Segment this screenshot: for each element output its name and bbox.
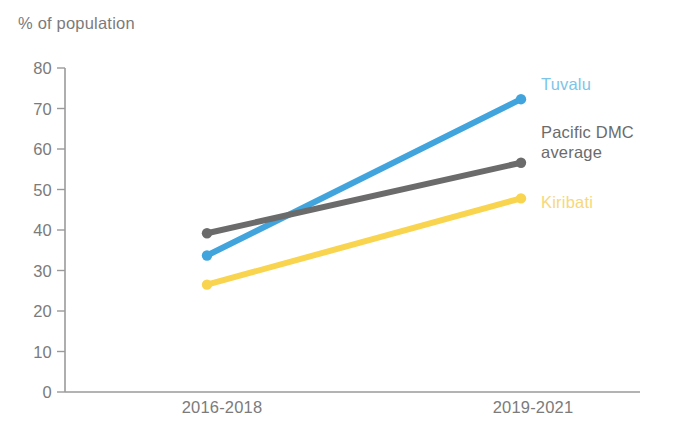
series-line — [207, 163, 521, 233]
data-point[interactable] — [202, 250, 212, 260]
series-line — [207, 198, 521, 284]
line-chart: % of population 80 70 60 50 40 30 20 10 … — [0, 0, 681, 422]
series-layer — [202, 94, 526, 290]
x-tick-label-1: 2019-2021 — [493, 398, 574, 417]
axis-lines — [65, 68, 640, 392]
data-point[interactable] — [516, 158, 526, 168]
series-label-tuvalu: Tuvalu — [541, 74, 591, 94]
data-point[interactable] — [202, 279, 212, 289]
data-point[interactable] — [516, 193, 526, 203]
series-kiribati — [202, 193, 526, 290]
series-line — [207, 99, 521, 255]
series-label-kiribati: Kiribati — [541, 192, 593, 212]
series-tuvalu — [202, 94, 526, 261]
data-point[interactable] — [516, 94, 526, 104]
data-point[interactable] — [202, 228, 212, 238]
series-pacific-dmc-average — [202, 158, 526, 239]
y-axis-ticks — [57, 68, 65, 392]
x-tick-label-0: 2016-2018 — [182, 398, 263, 417]
series-label-pacific-dmc-average: Pacific DMC average — [541, 122, 634, 162]
